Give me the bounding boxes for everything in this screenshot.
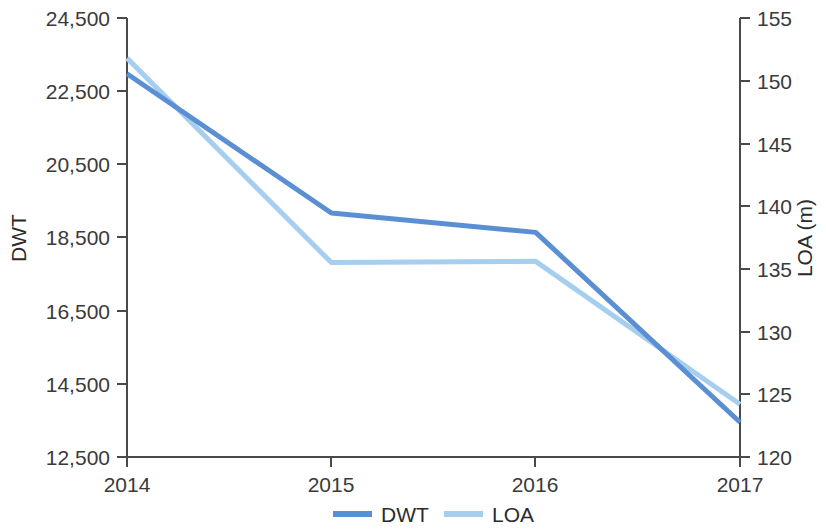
left-axis-ticks	[117, 18, 127, 457]
right-tick-label-135: 135	[757, 258, 792, 281]
series-line-dwt	[127, 74, 740, 422]
left-tick-label-18500: 18,500	[46, 226, 110, 249]
right-axis-title: LOA (m)	[793, 199, 816, 277]
right-tick-label-125: 125	[757, 383, 792, 406]
left-tick-label-24500: 24,500	[46, 7, 110, 30]
right-tick-label-145: 145	[757, 133, 792, 156]
chart-container: 24,500 22,500 20,500 18,500 16,500 14,50…	[0, 0, 826, 529]
chart-legend: DWT LOA	[333, 503, 534, 526]
right-tick-label-155: 155	[757, 7, 792, 30]
left-tick-label-22500: 22,500	[46, 80, 110, 103]
left-tick-label-20500: 20,500	[46, 153, 110, 176]
left-axis-title: DWT	[7, 214, 30, 262]
right-tick-label-150: 150	[757, 70, 792, 93]
x-tick-label-2016: 2016	[512, 473, 559, 496]
legend-label-loa: LOA	[492, 503, 534, 526]
x-tick-label-2015: 2015	[308, 473, 355, 496]
right-tick-label-140: 140	[757, 195, 792, 218]
line-chart-svg: 24,500 22,500 20,500 18,500 16,500 14,50…	[0, 0, 826, 529]
x-tick-label-2017: 2017	[717, 473, 764, 496]
x-axis-ticks	[127, 457, 740, 467]
x-tick-label-2014: 2014	[104, 473, 151, 496]
left-tick-label-14500: 14,500	[46, 373, 110, 396]
series-line-loa	[127, 58, 740, 404]
left-tick-label-16500: 16,500	[46, 300, 110, 323]
legend-label-dwt: DWT	[381, 503, 429, 526]
right-axis-ticks	[740, 18, 750, 457]
right-tick-label-120: 120	[757, 446, 792, 469]
right-tick-label-130: 130	[757, 321, 792, 344]
left-tick-label-12500: 12,500	[46, 446, 110, 469]
